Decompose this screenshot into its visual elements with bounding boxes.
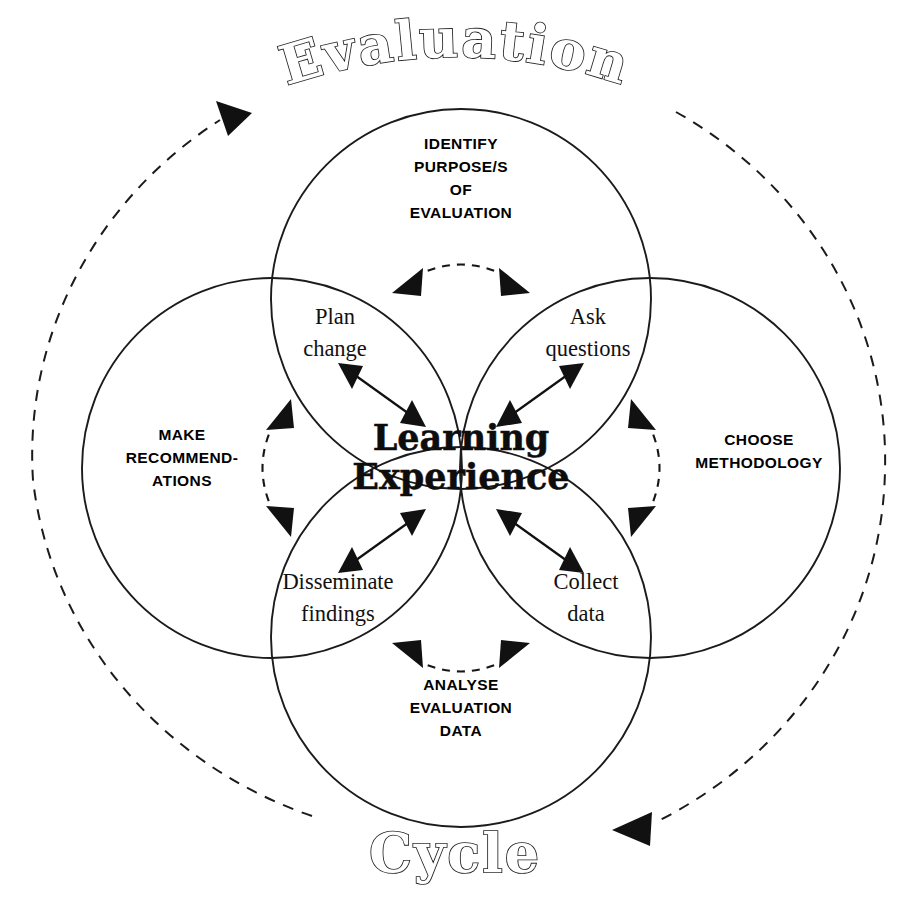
petal-link-bottom-arrowhead-right — [499, 640, 530, 668]
center-link-top-right-line — [510, 373, 570, 416]
phase-label-right: CHOOSE METHODOLOGY — [695, 431, 823, 471]
petal-link-bottom — [392, 640, 530, 672]
petal-link-left-arrowhead-bottom — [266, 506, 294, 537]
petal-link-bottom-arrowhead-left — [392, 640, 423, 668]
petal-label-top-left-line-2: change — [303, 336, 367, 361]
outer-cycle-arc-left — [32, 120, 312, 816]
center-label: Learning Experience — [352, 417, 569, 497]
phase-label-right-line-1: CHOOSE — [724, 431, 794, 448]
petal-link-top-arrowhead-right — [499, 268, 530, 296]
center-link-top-left-arrowhead-outer — [338, 363, 363, 389]
petal-label-top-right: Ask questions — [545, 304, 630, 361]
center-link-bottom-left-arrowhead-inner — [400, 509, 426, 536]
outer-cycle-arrowhead-bottom-right — [612, 812, 652, 846]
petal-label-bottom-right-line-1: Collect — [554, 569, 620, 594]
phase-label-right-line-2: METHODOLOGY — [695, 454, 823, 471]
petal-label-top-left-line-1: Plan — [315, 304, 355, 329]
petal-label-top-right-line-1: Ask — [570, 304, 607, 329]
arc-title-top: Evaluation — [272, 6, 638, 98]
phase-label-left-line-2: RECOMMEND- — [126, 449, 239, 466]
diagram-canvas: Evaluation Cycle IDENTIFY PURPOSE/S OF E… — [0, 0, 908, 911]
petal-label-bottom-right-line-2: data — [567, 601, 604, 626]
center-link-bottom-right-arrowhead-inner — [496, 509, 522, 536]
phase-label-bottom-line-1: ANALYSE — [423, 676, 498, 693]
phase-label-left: MAKE RECOMMEND- ATIONS — [126, 426, 239, 489]
petal-link-right-path — [647, 421, 660, 515]
outer-cycle-arrowhead-top-left — [216, 101, 252, 136]
petal-link-right-arrowhead-top — [628, 399, 656, 430]
center-label-line-2: Experience — [352, 456, 569, 497]
center-link-bottom-right-line — [510, 520, 570, 563]
phase-label-top-line-1: IDENTIFY — [424, 135, 498, 152]
arc-title-top-text: Evaluation — [272, 6, 638, 98]
petal-link-top — [392, 265, 530, 297]
petal-label-bottom-right: Collect data — [554, 569, 620, 626]
arc-title-bottom: Cycle — [369, 821, 541, 885]
phase-label-top-line-3: OF — [450, 181, 472, 198]
petal-link-top-path — [414, 265, 508, 278]
center-label-line-1: Learning — [373, 417, 550, 458]
petal-link-left-arrowhead-top — [266, 399, 294, 430]
phase-label-top-line-4: EVALUATION — [410, 204, 512, 221]
petal-link-left — [263, 399, 295, 537]
petal-link-bottom-path — [414, 659, 508, 672]
petal-link-left-path — [263, 421, 276, 515]
phase-label-top-line-2: PURPOSE/S — [414, 158, 508, 175]
center-link-top-right-arrowhead-outer — [559, 363, 584, 389]
phase-label-left-line-1: MAKE — [158, 426, 205, 443]
phase-label-bottom-line-3: DATA — [440, 722, 482, 739]
center-link-bottom-left-line — [352, 520, 412, 563]
petal-label-top-left: Plan change — [303, 304, 367, 361]
phase-circle-bottom — [271, 447, 651, 827]
petal-link-right-arrowhead-bottom — [628, 506, 656, 537]
petal-label-bottom-left-line-2: findings — [301, 601, 375, 626]
petal-link-right — [628, 399, 660, 537]
phase-label-top: IDENTIFY PURPOSE/S OF EVALUATION — [410, 135, 512, 221]
evaluation-cycle-diagram: Evaluation Cycle IDENTIFY PURPOSE/S OF E… — [0, 0, 908, 911]
phase-label-bottom: ANALYSE EVALUATION DATA — [410, 676, 512, 739]
center-link-top-left-line — [352, 373, 412, 416]
petal-link-top-arrowhead-left — [392, 268, 423, 296]
petal-label-top-right-line-2: questions — [545, 336, 630, 361]
phase-label-bottom-line-2: EVALUATION — [410, 699, 512, 716]
petal-label-bottom-left-line-1: Disseminate — [282, 569, 393, 594]
phase-label-left-line-3: ATIONS — [152, 472, 212, 489]
petal-label-bottom-left: Disseminate findings — [282, 569, 393, 626]
arc-title-bottom-text: Cycle — [369, 821, 541, 885]
